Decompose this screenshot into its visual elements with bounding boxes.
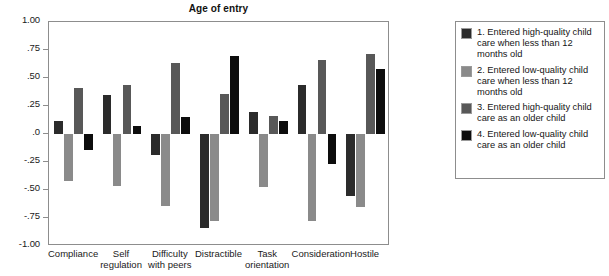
x-axis-tick-label-line: orientation: [243, 259, 292, 270]
bar-series-2-hostile: [356, 134, 365, 207]
x-axis-tick-label-compliance: Compliance: [48, 248, 97, 259]
x-axis-tick-label-consideration: Consideration: [292, 248, 341, 259]
plot-area: [48, 21, 389, 245]
x-axis-tick-label-line: Self: [97, 248, 146, 259]
bar-series-1-hostile: [346, 134, 355, 196]
bar-series-4-difficulty-with-peers: [181, 117, 190, 134]
x-axis-tick-label-line: Task: [243, 248, 292, 259]
x-axis-tick-label-hostile: Hostile: [340, 248, 389, 259]
legend-item-label: 2. Entered low-quality child care when l…: [477, 65, 600, 99]
bar-series-2-consideration: [308, 134, 317, 221]
bar-series-1-self-regulation: [103, 95, 112, 134]
bar-series-2-task-orientation: [259, 134, 268, 187]
series-2-swatch: [461, 66, 472, 77]
bar-series-1-distractible: [200, 134, 209, 228]
x-axis-tick-label-self-regulation: Selfregulation: [97, 248, 146, 270]
legend-item-4[interactable]: 4. Entered low-quality child care as an …: [461, 129, 600, 151]
bar-series-4-consideration: [328, 134, 337, 164]
bar-series-1-difficulty-with-peers: [151, 134, 160, 155]
bar-series-3-consideration: [318, 60, 327, 134]
y-axis: 1.00.75.50.25.0-.25-.50-.75-1.00: [0, 21, 48, 245]
chart-title: Age of entry: [48, 3, 389, 14]
series-1-swatch: [461, 28, 472, 39]
y-axis-tick-label: -.50: [24, 182, 40, 193]
bar-series-2-difficulty-with-peers: [161, 134, 170, 206]
y-axis-tick-label: .25: [27, 98, 40, 109]
bar-chart: Age of entry 1.00.75.50.25.0-.25-.50-.75…: [0, 0, 609, 276]
bar-series-3-compliance: [74, 88, 83, 134]
bar-series-3-hostile: [366, 54, 375, 134]
x-axis-tick-label-line: Compliance: [48, 248, 97, 259]
bar-series-1-compliance: [54, 121, 63, 134]
bar-series-3-self-regulation: [123, 85, 132, 134]
chart-legend: 1. Entered high-quality child care when …: [455, 21, 605, 179]
x-axis-tick-label-line: Difficulty: [145, 248, 194, 259]
y-axis-tick-label: -.75: [24, 210, 40, 221]
x-axis-tick-label-difficulty-with-peers: Difficultywith peers: [145, 248, 194, 270]
bar-series-3-distractible: [220, 94, 229, 134]
x-axis-tick-label-line: Consideration: [292, 248, 341, 259]
bar-series-3-task-orientation: [269, 116, 278, 134]
legend-item-3[interactable]: 3. Entered high-quality child care as an…: [461, 102, 600, 124]
series-4-swatch: [461, 130, 472, 141]
bar-series-1-consideration: [298, 85, 307, 134]
legend-item-1[interactable]: 1. Entered high-quality child care when …: [461, 27, 600, 61]
y-axis-tick-label: -.25: [24, 154, 40, 165]
series-3-swatch: [461, 103, 472, 114]
x-axis-tick-label-task-orientation: Taskorientation: [243, 248, 292, 270]
bar-series-4-self-regulation: [133, 126, 142, 134]
bar-series-3-difficulty-with-peers: [171, 63, 180, 134]
y-axis-tick-label: .75: [27, 42, 40, 53]
legend-item-label: 4. Entered low-quality child care as an …: [477, 129, 600, 151]
bar-series-2-self-regulation: [113, 134, 122, 186]
legend-item-2[interactable]: 2. Entered low-quality child care when l…: [461, 65, 600, 99]
bar-series-2-compliance: [64, 134, 73, 181]
bar-series-4-compliance: [84, 134, 93, 150]
x-axis-tick-label-line: regulation: [97, 259, 146, 270]
bar-series-4-hostile: [376, 69, 385, 134]
x-axis-tick-label-line: Distractible: [194, 248, 243, 259]
bar-series-1-task-orientation: [249, 112, 258, 134]
y-axis-tick-label: -1.00: [19, 238, 40, 249]
x-axis-tick-label-line: Hostile: [340, 248, 389, 259]
legend-item-label: 3. Entered high-quality child care as an…: [477, 102, 600, 124]
bar-series-2-distractible: [210, 134, 219, 221]
bar-series-4-distractible: [230, 56, 239, 134]
y-axis-tick-label: .0: [32, 126, 40, 137]
legend-item-label: 1. Entered high-quality child care when …: [477, 27, 600, 61]
bar-series-4-task-orientation: [279, 121, 288, 134]
x-axis-tick-label-line: with peers: [145, 259, 194, 270]
y-axis-tick-label: .50: [27, 70, 40, 81]
x-axis-tick-label-distractible: Distractible: [194, 248, 243, 259]
y-axis-tick-label: 1.00: [22, 14, 40, 25]
